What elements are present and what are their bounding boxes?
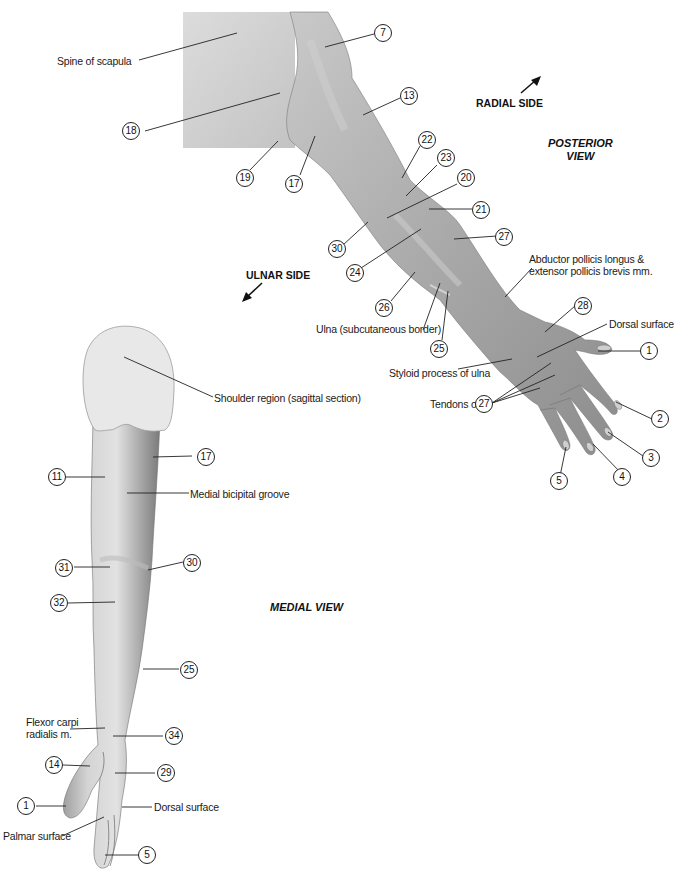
callout-28: 28 (574, 297, 592, 315)
callout-21: 21 (472, 201, 490, 219)
callout-24: 24 (346, 264, 364, 282)
callout-27-tendons: 27 (475, 395, 493, 413)
medial-arm (63, 420, 160, 868)
callout-17-medial: 17 (197, 448, 215, 466)
label-dorsal-surface-medial: Dorsal surface (154, 801, 219, 813)
callout-25-posterior: 25 (430, 340, 448, 358)
label-spine-of-scapula: Spine of scapula (57, 55, 131, 67)
label-abductor-line2: extensor pollicis brevis mm. (529, 265, 652, 277)
callout-19: 19 (236, 169, 254, 187)
callout-34: 34 (165, 727, 183, 745)
callout-32: 32 (50, 594, 68, 612)
callout-31: 31 (55, 559, 73, 577)
label-styloid-process-of-ulna: Styloid process of ulna (389, 367, 490, 379)
posterior-view-title-line1: POSTERIOR (548, 137, 613, 150)
radial-side-arrow-icon (521, 76, 541, 93)
callout-4: 4 (613, 468, 631, 486)
label-medial-bicipital-groove: Medial bicipital groove (190, 488, 289, 500)
label-abductor-line1: Abductor pollicis longus & (529, 253, 644, 265)
ulnar-side-arrow-icon (242, 283, 262, 302)
shoulder-sagittal-section (83, 326, 174, 431)
callout-22: 22 (418, 131, 436, 149)
posterior-view-title: POSTERIOR VIEW (548, 137, 613, 163)
posterior-arm (287, 12, 624, 455)
callout-14: 14 (45, 756, 63, 774)
callout-18: 18 (122, 122, 140, 140)
label-shoulder-region: Shoulder region (sagittal section) (214, 392, 361, 404)
posterior-shoulder-block (183, 12, 295, 148)
callout-3: 3 (642, 449, 660, 467)
label-flexor-line1: Flexor carpi (26, 716, 78, 728)
label-flexor-line2: radialis m. (26, 728, 72, 740)
callout-25-medial: 25 (180, 661, 198, 679)
label-tendons-of: Tendons of (430, 398, 479, 410)
callout-27-posterior: 27 (495, 228, 513, 246)
callout-1-medial: 1 (17, 797, 35, 815)
callout-5-posterior: 5 (550, 472, 568, 490)
radial-side-label: RADIAL SIDE (476, 97, 543, 109)
medial-view-title: MEDIAL VIEW (270, 601, 343, 614)
callout-1-posterior: 1 (640, 342, 658, 360)
label-dorsal-surface-posterior: Dorsal surface (609, 318, 674, 330)
callout-5-medial: 5 (138, 846, 156, 864)
label-ulna-subcutaneous-border: Ulna (subcutaneous border) (316, 323, 441, 335)
posterior-view-title-line2: VIEW (548, 150, 613, 163)
callout-26: 26 (375, 299, 393, 317)
arm-illustration (0, 0, 687, 882)
callout-7: 7 (374, 24, 392, 42)
callout-17-posterior: 17 (285, 175, 303, 193)
arm-anatomy-diagram: POSTERIOR VIEW RADIAL SIDE ULNAR SIDE Sp… (0, 0, 687, 882)
callout-30-medial: 30 (183, 554, 201, 572)
callout-20: 20 (457, 169, 475, 187)
callout-13: 13 (400, 87, 418, 105)
ulnar-side-label: ULNAR SIDE (246, 269, 310, 281)
callout-2: 2 (651, 410, 669, 428)
label-palmar-surface: Palmar surface (3, 830, 71, 842)
callout-23: 23 (437, 149, 455, 167)
callout-29: 29 (157, 764, 175, 782)
callout-30-posterior: 30 (328, 240, 346, 258)
callout-11: 11 (48, 468, 66, 486)
